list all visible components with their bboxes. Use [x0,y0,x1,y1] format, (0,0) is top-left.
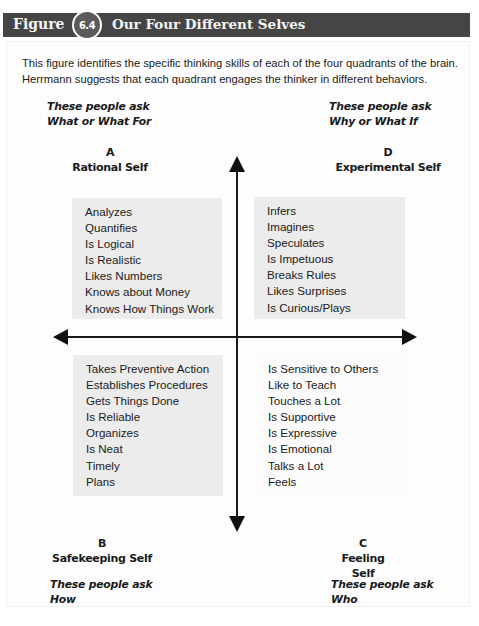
quadrant-c-ask-prefix: These people ask [331,577,434,592]
arrow-up-icon [229,156,245,172]
trait-item: Analyzes [85,204,222,220]
quadrant-b-traits-box: Takes Preventive Action Establishes Proc… [73,355,223,496]
quadrant-c-question: These people ask Who [331,577,434,607]
quadrant-a-label: A Rational Self [60,145,160,175]
trait-item: Talks a Lot [268,458,406,474]
quadrant-b-letter: B [40,536,164,551]
quadrant-d-ask-question: Why or What If [329,114,432,129]
quadrant-d-traits: Infers Imagines Speculates Is Impetuous … [267,203,405,316]
quadrant-a-traits: Analyzes Quantifies Is Logical Is Realis… [85,204,222,317]
intro-line-1: This figure identifies the specific thin… [22,56,462,72]
quadrant-b-label: B Safekeeping Self [40,536,164,566]
quadrant-d-ask-prefix: These people ask [329,99,432,114]
quadrant-a-traits-box: Analyzes Quantifies Is Logical Is Realis… [72,198,222,319]
trait-item: Is Realistic [85,252,222,268]
quadrant-d-label: D Experimental Self [326,145,450,175]
intro-line-2: Herrmann suggests that each quadrant eng… [22,72,462,88]
trait-item: Is Emotional [268,441,406,457]
trait-item: Quantifies [85,220,222,236]
quadrant-a-name: Rational Self [60,160,160,175]
trait-item: Likes Surprises [267,283,405,299]
trait-item: Plans [86,474,223,490]
quadrant-a-ask-prefix: These people ask [47,99,151,114]
arrow-left-icon [53,329,68,345]
quadrant-d-question: These people ask Why or What If [329,99,432,129]
quadrant-c-label: C Feeling Self [329,536,397,581]
figure-header: Figure 6.4 Our Four Different Selves [3,13,470,37]
figure-number-badge: 6.4 [72,10,102,40]
trait-item: Takes Preventive Action [86,361,223,377]
quadrant-a-question: These people ask What or What For [47,99,151,129]
quadrant-c-ask-question: Who [331,592,434,607]
quadrant-d-letter: D [326,145,450,160]
trait-item: Is Sensitive to Others [268,361,406,377]
quadrant-b-question: These people ask How [50,577,153,607]
quadrant-b-traits: Takes Preventive Action Establishes Proc… [86,361,223,490]
trait-item: Knows How Things Work [85,301,222,317]
trait-item: Infers [267,203,405,219]
quadrant-d-traits-box: Infers Imagines Speculates Is Impetuous … [254,197,405,319]
trait-item: Feels [268,474,406,490]
trait-item: Organizes [86,425,223,441]
trait-item: Knows about Money [85,284,222,300]
intro-text: This figure identifies the specific thin… [22,56,462,87]
figure-title: Our Four Different Selves [112,16,305,32]
quadrant-b-ask-prefix: These people ask [50,577,153,592]
trait-item: Is Logical [85,236,222,252]
trait-item: Is Neat [86,441,223,457]
quadrant-c-letter: C [329,536,397,551]
quadrant-d-name: Experimental Self [326,160,450,175]
quadrant-c-traits-box: Is Sensitive to Others Like to Teach Tou… [255,355,406,496]
trait-item: Gets Things Done [86,393,223,409]
trait-item: Timely [86,458,223,474]
quadrant-b-ask-question: How [50,592,153,607]
quadrant-a-ask-question: What or What For [47,114,151,129]
vertical-axis [236,168,238,520]
trait-item: Is Expressive [268,425,406,441]
trait-item: Is Supportive [268,409,406,425]
arrow-right-icon [402,329,417,345]
trait-item: Likes Numbers [85,268,222,284]
trait-item: Touches a Lot [268,393,406,409]
trait-item: Imagines [267,219,405,235]
trait-item: Speculates [267,235,405,251]
trait-item: Is Reliable [86,409,223,425]
trait-item: Like to Teach [268,377,406,393]
figure-label: Figure [13,16,65,32]
trait-item: Is Curious/Plays [267,300,405,316]
horizontal-axis [66,336,404,338]
quadrant-b-name: Safekeeping Self [40,551,164,566]
trait-item: Breaks Rules [267,267,405,283]
arrow-down-icon [229,516,245,532]
trait-item: Establishes Procedures [86,377,223,393]
quadrant-c-traits: Is Sensitive to Others Like to Teach Tou… [268,361,406,490]
trait-item: Is Impetuous [267,251,405,267]
quadrant-a-letter: A [60,145,160,160]
